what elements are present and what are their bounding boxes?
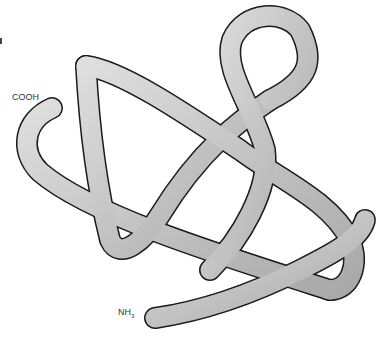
n-terminus-text: NH: [118, 307, 131, 317]
c-terminus-label: COOH: [12, 92, 39, 102]
n-terminus-subscript: 3: [131, 313, 134, 319]
c-terminus-text: COOH: [12, 92, 39, 102]
polypeptide-chain: [0, 0, 381, 344]
protein-fold-diagram: COOH NH3: [0, 0, 381, 344]
n-terminus-label: NH3: [118, 307, 134, 319]
